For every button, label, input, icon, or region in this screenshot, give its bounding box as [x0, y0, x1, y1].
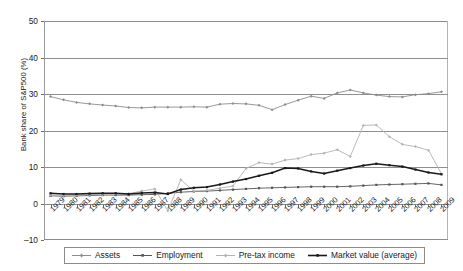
data-point-marker [349, 88, 352, 91]
data-point-marker [258, 175, 260, 177]
legend-item-pre-tax-income[interactable]: Pre-tax income [216, 250, 295, 260]
data-point-marker [427, 182, 429, 184]
legend-swatch-icon [216, 251, 235, 260]
data-point-marker [153, 106, 156, 109]
data-point-marker [414, 93, 417, 96]
data-point-marker [127, 106, 130, 109]
data-point-marker [284, 186, 286, 188]
data-point-marker [75, 101, 78, 104]
data-point-marker [401, 166, 403, 168]
data-point-marker [75, 193, 77, 195]
data-point-marker [375, 163, 377, 165]
data-point-marker [349, 185, 351, 187]
data-point-marker [414, 168, 416, 170]
data-point-marker [258, 161, 261, 164]
y-axis-tick-mark [41, 204, 44, 205]
data-point-marker [49, 192, 51, 194]
legend-label: Market value (average) [331, 250, 417, 260]
data-point-marker [375, 184, 377, 186]
data-point-marker [362, 164, 364, 166]
data-point-marker [388, 183, 390, 185]
data-point-marker [336, 91, 339, 94]
data-point-marker [245, 102, 248, 105]
data-point-marker [284, 167, 286, 169]
data-point-marker [218, 187, 221, 190]
series-lines [44, 21, 448, 200]
data-point-marker [102, 192, 104, 194]
chart-legend: AssetsEmploymentPre-tax incomeMarket val… [64, 247, 425, 264]
data-point-marker [88, 102, 91, 105]
data-point-marker [271, 187, 273, 189]
data-point-marker [271, 172, 273, 174]
data-point-marker [427, 92, 430, 95]
data-point-marker [440, 90, 443, 93]
data-point-marker [166, 106, 169, 109]
data-point-marker [179, 106, 182, 109]
y-axis-tick-label: 50 [0, 17, 38, 25]
data-point-marker [362, 91, 365, 94]
data-point-marker [258, 187, 260, 189]
legend-label: Pre-tax income [239, 250, 295, 260]
data-point-marker [232, 189, 234, 191]
data-point-marker [414, 145, 417, 148]
data-point-marker [362, 185, 364, 187]
data-point-marker [336, 148, 339, 151]
data-point-marker [114, 105, 117, 108]
data-point-marker [219, 183, 221, 185]
data-point-marker [49, 95, 52, 98]
data-point-marker [310, 170, 312, 172]
data-point-marker [284, 159, 287, 162]
data-point-marker [310, 153, 313, 156]
data-point-marker [310, 95, 313, 98]
data-point-marker [297, 157, 300, 160]
data-point-marker [258, 104, 261, 107]
data-point-marker [297, 99, 300, 102]
data-point-marker [401, 95, 404, 98]
data-point-marker [62, 193, 64, 195]
data-point-marker [205, 106, 208, 109]
data-point-marker [180, 191, 182, 193]
data-point-marker [401, 183, 403, 185]
data-point-marker [271, 108, 274, 111]
data-point-marker [192, 105, 195, 108]
chart-figure: Bank share of S&P500 (%) –1001020304050 … [0, 0, 463, 271]
data-point-marker [245, 188, 247, 190]
data-point-marker [388, 164, 390, 166]
data-point-marker [336, 170, 338, 172]
legend-item-employment[interactable]: Employment [133, 250, 203, 260]
data-point-marker [336, 186, 338, 188]
data-point-marker [218, 103, 221, 106]
data-point-marker [245, 178, 247, 180]
data-point-marker [101, 103, 104, 106]
data-point-marker [180, 189, 182, 191]
legend-swatch-icon [308, 251, 327, 260]
data-point-marker [232, 181, 234, 183]
y-axis-tick-label: 0 [0, 200, 38, 208]
data-point-marker [388, 95, 391, 98]
data-point-marker [323, 186, 325, 188]
data-point-marker [206, 186, 208, 188]
data-point-marker [440, 184, 442, 186]
data-point-marker [427, 171, 429, 173]
data-point-marker [349, 167, 351, 169]
data-point-marker [323, 152, 326, 155]
data-point-marker [231, 102, 234, 105]
y-axis-tick-label: 20 [0, 127, 38, 135]
data-point-marker [193, 187, 195, 189]
data-point-marker [167, 193, 169, 195]
data-point-marker [310, 186, 312, 188]
data-point-marker [115, 192, 117, 194]
data-point-marker [375, 94, 378, 97]
data-point-marker [271, 163, 274, 166]
legend-label: Assets [95, 250, 120, 260]
data-point-marker [89, 193, 91, 195]
y-axis-tick-label: –10 [0, 236, 38, 244]
data-point-marker [362, 124, 365, 127]
legend-label: Employment [156, 250, 203, 260]
legend-item-assets[interactable]: Assets [72, 250, 120, 260]
y-axis-tick-label: 30 [0, 90, 38, 98]
legend-item-market-value-average[interactable]: Market value (average) [308, 250, 417, 260]
data-point-marker [297, 167, 299, 169]
data-point-marker [284, 103, 287, 106]
data-point-marker [323, 97, 326, 100]
